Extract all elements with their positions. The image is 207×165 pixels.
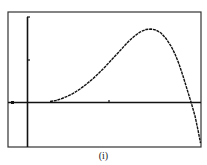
function-curve — [50, 29, 201, 143]
cursor-mark — [11, 101, 14, 104]
calculator-plot — [0, 0, 207, 165]
figure-caption: (i) — [0, 150, 207, 161]
plot-frame — [8, 12, 201, 147]
